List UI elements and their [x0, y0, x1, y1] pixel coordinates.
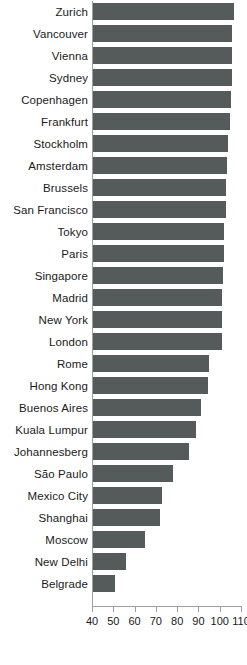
x-axis-tick: [198, 606, 199, 612]
x-axis-tick-label: 50: [107, 615, 119, 627]
bar-track: [92, 267, 247, 284]
bar-row: Stockholm: [0, 133, 247, 155]
bar-row: Zurich: [0, 1, 247, 23]
x-axis-tick: [177, 606, 178, 612]
bar-row: Shanghai: [0, 507, 247, 529]
bar-track: [92, 333, 247, 350]
bar-track: [92, 311, 247, 328]
x-axis-tick: [241, 606, 242, 612]
bar-row: Amsterdam: [0, 155, 247, 177]
bar-category-label: New York: [39, 309, 88, 331]
bar-row: Tokyo: [0, 221, 247, 243]
bar-row: Rome: [0, 353, 247, 375]
x-axis-tick: [92, 606, 93, 612]
bar-category-label: Kuala Lumpur: [15, 419, 88, 441]
bar: [92, 245, 224, 262]
x-axis-tick: [220, 606, 221, 612]
x-axis-tick-label: 80: [171, 615, 183, 627]
bar: [92, 289, 222, 306]
x-axis-tick-label: 60: [128, 615, 140, 627]
bar: [92, 179, 226, 196]
bar-row: Frankfurt: [0, 111, 247, 133]
bar-track: [92, 465, 247, 482]
bar: [92, 355, 209, 372]
x-axis-tick-label: 90: [192, 615, 204, 627]
bar: [92, 531, 145, 548]
bar-row: Moscow: [0, 529, 247, 551]
bar-track: [92, 553, 247, 570]
bar: [92, 3, 234, 20]
bar-row: Kuala Lumpur: [0, 419, 247, 441]
x-axis-tick: [113, 606, 114, 612]
bar-category-label: Madrid: [52, 287, 88, 309]
x-axis-tick-label: 110: [232, 615, 247, 627]
bar-category-label: Johannesberg: [14, 441, 88, 463]
bar-category-label: Shanghai: [39, 507, 88, 529]
bar-track: [92, 223, 247, 240]
bar-row: Vienna: [0, 45, 247, 67]
bar: [92, 443, 189, 460]
bar-track: [92, 377, 247, 394]
bar-track: [92, 355, 247, 372]
bar: [92, 509, 160, 526]
bar-category-label: Stockholm: [33, 133, 88, 155]
bar-row: São Paulo: [0, 463, 247, 485]
bar-track: [92, 135, 247, 152]
bar-category-label: Singapore: [35, 265, 88, 287]
x-axis-tick-label: 70: [150, 615, 162, 627]
bar-category-label: Zurich: [55, 1, 88, 23]
bar-row: New York: [0, 309, 247, 331]
bar-track: [92, 25, 247, 42]
bar-track: [92, 91, 247, 108]
bar: [92, 377, 208, 394]
bar-row: Paris: [0, 243, 247, 265]
bar-category-label: New Delhi: [35, 551, 88, 573]
bar: [92, 311, 222, 328]
bar-track: [92, 399, 247, 416]
bar-category-label: Vancouver: [33, 23, 88, 45]
bar: [92, 553, 126, 570]
bar-track: [92, 443, 247, 460]
bar: [92, 135, 228, 152]
x-axis-tick-label: 40: [86, 615, 98, 627]
bar-row: New Delhi: [0, 551, 247, 573]
bar-track: [92, 157, 247, 174]
bar-category-label: Sydney: [49, 67, 88, 89]
bar-row: Hong Kong: [0, 375, 247, 397]
bar: [92, 575, 115, 592]
bar: [92, 201, 226, 218]
bar-category-label: Brussels: [43, 177, 88, 199]
bar-track: [92, 487, 247, 504]
bar-track: [92, 509, 247, 526]
bar-row: Vancouver: [0, 23, 247, 45]
bar-row: Copenhagen: [0, 89, 247, 111]
bar-row: Belgrade: [0, 573, 247, 595]
bar-category-label: Moscow: [45, 529, 88, 551]
bar-category-label: San Francisco: [13, 199, 88, 221]
bar-category-label: Tokyo: [57, 221, 88, 243]
bar-row: London: [0, 331, 247, 353]
bar-row: San Francisco: [0, 199, 247, 221]
bar-category-label: London: [49, 331, 88, 353]
axis-baseline: [92, 1, 93, 606]
bar: [92, 421, 196, 438]
chart-rows: ZurichVancouverViennaSydneyCopenhagenFra…: [0, 1, 247, 595]
bar-track: [92, 3, 247, 20]
bar: [92, 91, 231, 108]
bar-row: Sydney: [0, 67, 247, 89]
bar-row: Madrid: [0, 287, 247, 309]
bar-category-label: Paris: [61, 243, 88, 265]
bar-row: Johannesberg: [0, 441, 247, 463]
bar: [92, 267, 223, 284]
bar: [92, 113, 230, 130]
bar: [92, 69, 232, 86]
bar: [92, 47, 232, 64]
bar: [92, 25, 232, 42]
bar-track: [92, 421, 247, 438]
bar-row: Buenos Aires: [0, 397, 247, 419]
bar-chart: ZurichVancouverViennaSydneyCopenhagenFra…: [0, 0, 247, 665]
bar: [92, 399, 201, 416]
bar-track: [92, 47, 247, 64]
x-axis-tick-label: 100: [211, 615, 229, 627]
bar-category-label: Belgrade: [41, 573, 88, 595]
